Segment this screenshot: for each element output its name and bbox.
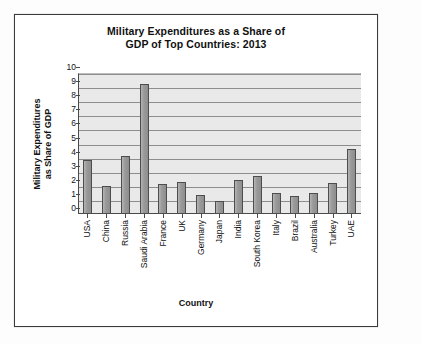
y-axis-tick-label: 1 <box>58 189 76 200</box>
chart-title-line-1: Military Expenditures as a Share of <box>15 25 377 38</box>
bar-slot[interactable] <box>304 73 323 214</box>
x-axis-tick-label: Russia <box>121 220 130 246</box>
x-axis-tick-mark <box>276 214 277 218</box>
x-axis-tick-mark <box>314 214 315 218</box>
y-axis-tick-label: 6 <box>58 118 76 129</box>
x-axis-tick-label: China <box>102 220 111 242</box>
bar[interactable] <box>253 176 262 214</box>
x-axis-tick-slot <box>323 214 342 218</box>
x-axis-label-slot: Brazil <box>285 220 304 290</box>
bar-slot[interactable] <box>191 73 210 214</box>
x-axis-tick-mark <box>257 214 258 218</box>
y-axis-title-line-2: as Share of GDP <box>43 69 54 219</box>
x-axis-tick-mark <box>125 214 126 218</box>
chart-page: Military Expenditures as a Share of GDP … <box>0 0 422 344</box>
y-axis-tick-label: 10 <box>58 62 76 73</box>
bar[interactable] <box>196 195 205 214</box>
x-axis-tickmarks <box>78 214 361 218</box>
x-axis-tick-mark <box>144 214 145 218</box>
x-axis-label-slot: Australia <box>304 220 323 290</box>
bar-slot[interactable] <box>285 73 304 214</box>
bar-slot[interactable] <box>172 73 191 214</box>
x-axis-tick-slot <box>135 214 154 218</box>
x-axis-tick-mark <box>87 214 88 218</box>
x-axis-tick-label: Germany <box>196 220 205 255</box>
bar-slot[interactable] <box>267 73 286 214</box>
bar-slot[interactable] <box>97 73 116 214</box>
x-axis-tick-slot <box>342 214 361 218</box>
x-axis-tick-slot <box>267 214 286 218</box>
bar-slot[interactable] <box>116 73 135 214</box>
x-axis-label-slot: Saudi Arabia <box>135 220 154 290</box>
bar[interactable] <box>158 184 167 214</box>
x-axis-tick-label: Italy <box>272 220 281 236</box>
x-axis-label-slot: Italy <box>267 220 286 290</box>
x-axis-tick-label: UAE <box>347 220 356 237</box>
bar-slot[interactable] <box>342 73 361 214</box>
y-axis-tick-label: 9 <box>58 76 76 87</box>
bar[interactable] <box>215 201 224 214</box>
x-axis-tick-label: France <box>158 220 167 246</box>
x-axis-tick-label: Turkey <box>328 220 337 246</box>
x-axis-label-slot: Russia <box>116 220 135 290</box>
y-axis-tick-label: 2 <box>58 175 76 186</box>
bar[interactable] <box>272 193 281 214</box>
y-axis-tick-mark <box>76 67 80 68</box>
chart-frame: Military Expenditures as a Share of GDP … <box>14 14 378 327</box>
y-axis-title: Military Expenditures as Share of GDP <box>32 69 54 219</box>
bar-slot[interactable] <box>248 73 267 214</box>
x-axis-tick-mark <box>333 214 334 218</box>
x-axis-tick-slot <box>191 214 210 218</box>
x-axis-tick-mark <box>219 214 220 218</box>
bar-slot[interactable] <box>323 73 342 214</box>
x-axis-title: Country <box>15 298 377 308</box>
x-axis-tick-slot <box>78 214 97 218</box>
x-axis-label-slot: France <box>153 220 172 290</box>
bar[interactable] <box>121 156 130 214</box>
x-axis-tick-label: India <box>234 220 243 238</box>
x-axis-label-slot: USA <box>78 220 97 290</box>
bar-slot[interactable] <box>210 73 229 214</box>
bar[interactable] <box>328 183 337 214</box>
y-axis-tick-label: 8 <box>58 90 76 101</box>
x-axis-label-slot: Turkey <box>323 220 342 290</box>
x-axis-label-slot: China <box>97 220 116 290</box>
bar-slot[interactable] <box>229 73 248 214</box>
bar[interactable] <box>83 160 92 214</box>
y-axis-title-line-1: Military Expenditures <box>32 69 43 219</box>
bar[interactable] <box>234 180 243 214</box>
x-axis-label-slot: UAE <box>342 220 361 290</box>
x-axis-tick-mark <box>163 214 164 218</box>
x-axis-tick-label: Saudi Arabia <box>140 220 149 268</box>
x-axis-label-slot: Japan <box>210 220 229 290</box>
bar[interactable] <box>309 193 318 214</box>
x-axis-tick-mark <box>238 214 239 218</box>
x-axis-tick-label: Australia <box>309 220 318 253</box>
x-axis-tick-mark <box>182 214 183 218</box>
y-axis-tick-label: 3 <box>58 161 76 172</box>
x-axis-tick-slot <box>97 214 116 218</box>
x-axis-label-slot: Germany <box>191 220 210 290</box>
x-axis-tick-mark <box>351 214 352 218</box>
x-axis-tick-slot <box>116 214 135 218</box>
x-axis-tick-slot <box>229 214 248 218</box>
x-axis-tick-label: Brazil <box>290 220 299 241</box>
y-axis-ticks: 109876543210 <box>58 67 76 220</box>
x-axis-tick-slot <box>172 214 191 218</box>
bar[interactable] <box>140 84 149 214</box>
bar-slot[interactable] <box>135 73 154 214</box>
y-axis-tick-label: 5 <box>58 133 76 144</box>
bar[interactable] <box>347 149 356 214</box>
x-axis-tick-mark <box>295 214 296 218</box>
bar-series <box>78 73 361 214</box>
bar[interactable] <box>290 196 299 214</box>
plot-area: 109876543210 USAChinaRussiaSaudi ArabiaF… <box>78 73 361 214</box>
x-axis-tick-slot <box>153 214 172 218</box>
bar-slot[interactable] <box>153 73 172 214</box>
x-axis-tick-slot <box>304 214 323 218</box>
x-axis-label-slot: UK <box>172 220 191 290</box>
chart-title: Military Expenditures as a Share of GDP … <box>15 25 377 51</box>
bar[interactable] <box>177 182 186 214</box>
bar-slot[interactable] <box>78 73 97 214</box>
bar[interactable] <box>102 186 111 214</box>
